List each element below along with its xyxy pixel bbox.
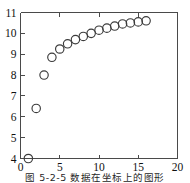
- data-point: [87, 29, 95, 37]
- data-point: [32, 104, 40, 112]
- data-point-group: [24, 17, 150, 163]
- data-point: [103, 24, 111, 32]
- y-tick-label: 7: [11, 90, 17, 102]
- data-point: [79, 32, 87, 40]
- data-point: [48, 53, 56, 61]
- data-point: [95, 26, 103, 34]
- data-point: [56, 45, 64, 53]
- data-point: [126, 19, 134, 27]
- data-point: [71, 35, 79, 43]
- y-tick-label: 4: [11, 153, 17, 165]
- figure-caption-text: 图 5-2-5 数据在坐标上的图形: [0, 172, 190, 183]
- y-axis-tick-labels: 4567891011: [5, 7, 17, 165]
- y-tick-label: 9: [11, 48, 17, 60]
- figure-caption: 图 5-2-5 数据在坐标上的图形: [0, 171, 190, 183]
- data-point: [118, 20, 126, 28]
- y-tick-label: 5: [11, 132, 17, 144]
- y-tick-label: 8: [11, 69, 17, 81]
- data-point: [63, 40, 71, 48]
- scatter-plot-svg: 4567891011 05101520: [0, 0, 190, 172]
- y-tick-label: 10: [5, 27, 17, 39]
- y-tick-label: 6: [11, 111, 17, 123]
- data-point: [134, 18, 142, 26]
- y-tick-label: 11: [5, 7, 16, 19]
- plot-area: 4567891011 05101520: [0, 0, 190, 172]
- figure-container: 4567891011 05101520 图 5-2-5 数据在坐标上的图形: [0, 0, 190, 183]
- data-point: [111, 22, 119, 30]
- data-point: [40, 71, 48, 79]
- data-point: [142, 17, 150, 25]
